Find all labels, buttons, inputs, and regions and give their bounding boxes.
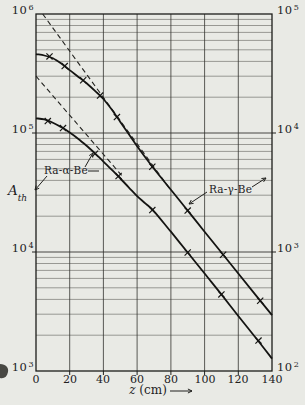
right-axis-label-1e5: 105 [277,5,305,17]
left-axis-label-1e6: 106 [3,5,33,17]
arrow-alpha-label-to-left-scale [35,176,47,190]
right-axis-label-1e4: 104 [277,124,305,136]
x-axis-variable: z [129,383,135,397]
grid-minor-horizontal [36,19,272,335]
x-tick-40: 40 [88,374,118,385]
activation-vs-distance-figure: 106 105 104 103 105 104 103 102 0 20 40 … [0,0,305,405]
markers-ra-be [45,118,262,344]
x-tick-140: 140 [257,374,287,385]
right-axis-label-1e3: 103 [277,243,305,255]
asymptote-ra-be-exponential-asymptote [36,76,124,178]
x-axis-unit: (cm) [139,383,166,397]
x-axis-title: z (cm) [118,384,178,396]
x-tick-100: 100 [190,374,220,385]
curve-label-ra-gamma-be: Ra-γ-Be [209,184,252,195]
curve-ra-be [36,118,272,358]
arrow-gamma-label-to-right-scale [252,178,266,187]
chart-canvas [0,0,305,405]
left-axis-label-1e3: 103 [3,362,33,374]
markers-ra-be [46,53,263,303]
left-axis-label-1e4: 104 [3,243,33,255]
y-axis-quantity-label: Ath [8,184,27,201]
right-axis-label-1e2: 102 [277,362,305,374]
curve-label-ra-alpha-be: Ra-α-Be [44,165,88,176]
x-tick-120: 120 [223,374,253,385]
left-axis-label-1e5: 105 [3,124,33,136]
x-tick-0: 0 [21,374,51,385]
x-tick-20: 20 [55,374,85,385]
